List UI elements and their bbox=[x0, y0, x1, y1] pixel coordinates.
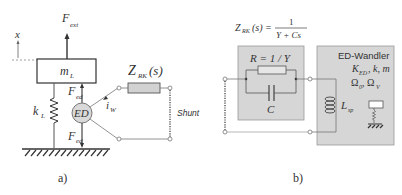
transducer-title: ED-Wandler bbox=[338, 50, 389, 61]
formula-lhs-sub: RK bbox=[241, 28, 251, 34]
force-ed-top-sub: ed bbox=[76, 93, 83, 101]
ground-hatch-icon bbox=[25, 150, 108, 156]
terminal-b-left-bottom bbox=[223, 130, 227, 134]
spring-label: k bbox=[33, 104, 39, 118]
formula-lhs-arg: (s) = bbox=[252, 22, 272, 34]
terminal-b-left-top bbox=[223, 77, 227, 81]
panel-b-caption: b) bbox=[293, 171, 303, 185]
transducer-label: ED bbox=[73, 107, 89, 119]
x-axis-label: x bbox=[14, 28, 20, 40]
force-ext-sub: ext bbox=[70, 21, 79, 29]
params-line1-rest: , k, m bbox=[368, 63, 390, 74]
resistor-label: R = 1 / Y bbox=[249, 52, 292, 64]
inductor-label: L bbox=[340, 99, 347, 111]
params-line2: Ω bbox=[351, 77, 358, 88]
spring-sub: L bbox=[40, 112, 45, 120]
panel-b: Z RK (s) = 1 Y + Cs R = 1 / Y C bbox=[223, 17, 394, 185]
wire-top bbox=[90, 88, 118, 107]
force-ed-bottom-sub: ed bbox=[76, 137, 83, 145]
impedance-arg: (s) bbox=[149, 63, 163, 78]
panel-a-caption: a) bbox=[58, 171, 67, 185]
terminal-shunt-top bbox=[168, 86, 172, 90]
force-ext-arrowhead-icon bbox=[65, 33, 70, 39]
spring-icon bbox=[50, 98, 58, 123]
shunt-label: Shunt bbox=[177, 108, 200, 118]
formula-lhs: Z bbox=[235, 22, 241, 33]
terminal-shunt-bottom bbox=[168, 137, 172, 141]
panel-a: x F ext m L k L F ed ED F ed bbox=[12, 11, 200, 185]
resistor-icon bbox=[258, 66, 286, 74]
impedance-label: Z bbox=[128, 63, 136, 78]
terminal-top bbox=[117, 86, 121, 90]
capacitor-label: C bbox=[267, 103, 275, 115]
formula-denominator: Y + Cs bbox=[276, 30, 302, 40]
mass-sub: L bbox=[69, 72, 74, 80]
force-ed-top-label: F bbox=[67, 84, 76, 98]
impedance-block bbox=[128, 83, 160, 93]
terminal-b-right-top bbox=[308, 77, 312, 81]
params-line2-mid: , Ω bbox=[362, 77, 374, 88]
figure-canvas: x F ext m L k L F ed ED F ed bbox=[0, 0, 402, 195]
current-label: i bbox=[106, 99, 109, 111]
current-sub: W bbox=[110, 106, 117, 114]
force-ed-top-arrowhead-icon bbox=[80, 83, 84, 88]
x-axis-arrowhead-icon bbox=[17, 40, 20, 44]
force-ed-bottom-label: F bbox=[67, 129, 76, 143]
formula-numerator: 1 bbox=[289, 17, 294, 27]
inductor-sub: sp bbox=[348, 107, 353, 113]
mass-label: m bbox=[60, 64, 69, 78]
mini-mass-icon bbox=[369, 101, 383, 108]
terminal-bottom bbox=[117, 137, 121, 141]
terminal-b-right-bottom bbox=[308, 130, 312, 134]
force-ext-label: F bbox=[61, 11, 70, 25]
impedance-sub: RK bbox=[137, 72, 147, 80]
params-line1-sub: ED bbox=[358, 70, 368, 76]
wire-bottom bbox=[90, 119, 118, 139]
